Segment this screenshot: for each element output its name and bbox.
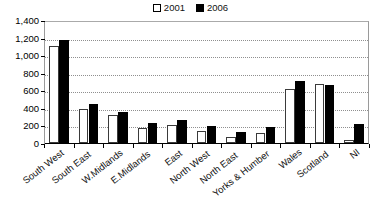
- bar-2006: [207, 126, 217, 143]
- bar-2001: [167, 125, 177, 143]
- bar-2001: [344, 140, 354, 144]
- y-axis-tick-label: 1,200: [15, 34, 39, 44]
- bar-group: [197, 22, 217, 143]
- x-axis-tick-label: NI: [348, 147, 361, 160]
- y-axis-tick-label: 1,000: [15, 51, 39, 61]
- legend-label-2006: 2006: [207, 3, 228, 13]
- legend-label-2001: 2001: [164, 3, 185, 13]
- y-axis-tick: [41, 74, 45, 75]
- bar-2006: [118, 112, 128, 143]
- y-axis-tick: [41, 56, 45, 57]
- bar-2006: [354, 124, 364, 143]
- y-axis-labels: 02004006008001,0001,2001,400: [0, 21, 39, 144]
- y-axis-tick: [41, 21, 45, 22]
- x-axis-tick-label: East: [163, 148, 184, 167]
- bar-group: [108, 22, 128, 143]
- bar-groups: [44, 22, 368, 143]
- legend-item-2006: 2006: [196, 3, 228, 13]
- bar-group: [226, 22, 246, 143]
- bar-group: [285, 22, 305, 143]
- plot-area: [44, 21, 369, 144]
- y-axis-tick-label: 1,400: [15, 16, 39, 26]
- bar-2001: [256, 133, 266, 143]
- bar-group: [79, 22, 99, 143]
- bar-group: [256, 22, 276, 143]
- bar-group: [344, 22, 364, 143]
- y-axis-tick: [41, 91, 45, 92]
- bar-2001: [315, 84, 325, 143]
- bar-2006: [266, 127, 276, 143]
- y-axis-tick-label: 800: [23, 69, 39, 79]
- bar-group: [138, 22, 158, 143]
- y-axis-tick: [41, 39, 45, 40]
- bar-2001: [226, 137, 236, 143]
- legend-item-2001: 2001: [153, 3, 185, 13]
- bar-2001: [138, 128, 148, 143]
- bar-2001: [285, 89, 295, 143]
- bar-2006: [148, 123, 158, 143]
- bar-group: [167, 22, 187, 143]
- bar-2001: [197, 131, 207, 143]
- bar-2006: [59, 40, 69, 143]
- y-axis-tick-label: 400: [23, 104, 39, 114]
- open-square-icon: [153, 4, 161, 12]
- bar-2006: [177, 120, 187, 143]
- bar-2006: [89, 104, 99, 143]
- y-axis-tick: [41, 126, 45, 127]
- bar-2001: [49, 46, 59, 143]
- bar-2001: [108, 115, 118, 143]
- bar-chart: 2001 2006 02004006008001,0001,2001,400 S…: [0, 0, 381, 220]
- bar-2006: [325, 85, 335, 143]
- bar-2006: [295, 81, 305, 143]
- y-axis-tick-label: 600: [23, 87, 39, 97]
- filled-square-icon: [196, 4, 204, 12]
- y-axis: [44, 21, 45, 144]
- chart-legend: 2001 2006: [0, 3, 381, 13]
- bar-group: [315, 22, 335, 143]
- y-axis-tick-label: 200: [23, 122, 39, 132]
- x-axis-tick-label: Yorks & Humber: [211, 149, 271, 199]
- bar-2006: [236, 132, 246, 143]
- x-axis-labels: South WestSouth EastW.MidlandsE.Midlands…: [0, 146, 381, 220]
- bar-2001: [79, 109, 89, 143]
- y-axis-tick: [41, 109, 45, 110]
- bar-group: [49, 22, 69, 143]
